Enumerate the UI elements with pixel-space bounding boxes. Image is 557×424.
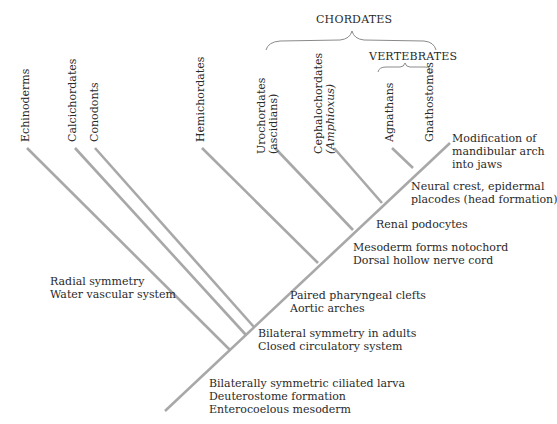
trait-root: Bilaterally symmetric ciliated larva Deu…: [209, 377, 405, 416]
trait-notochord: Mesoderm forms notochord Dorsal hollow n…: [353, 241, 508, 267]
taxon-agnathans: Agnathans: [384, 83, 396, 142]
trait-renal-podocytes: Renal podocytes: [376, 218, 468, 231]
trait-pharyngeal-clefts: Paired pharyngeal clefts Aortic arches: [290, 289, 426, 315]
taxon-calcichordates: Calcichordates: [67, 59, 79, 142]
chordates-label: CHORDATES: [316, 13, 392, 26]
taxon-cephalochordates: Cephalochordates (Amphioxus): [313, 53, 337, 154]
taxon-urochordates: Urochordates (ascidians): [256, 78, 280, 154]
taxon-hemichordates: Hemichordates: [195, 57, 207, 142]
trait-jaws: Modification of mandibular arch into jaw…: [452, 132, 545, 171]
trait-bilateral-adults: Bilateral symmetry in adults Closed circ…: [258, 327, 416, 353]
branch-agnathans: [392, 148, 413, 168]
branch-calcichordates: [75, 148, 246, 335]
chordates-brace: [266, 31, 436, 50]
branch-cephalochordates: [334, 148, 382, 203]
taxon-conodonts: Conodonts: [89, 82, 101, 142]
branch-echinoderms: [27, 148, 230, 350]
vertebrates-label: VERTEBRATES: [369, 50, 457, 63]
branch-hemichordates: [202, 148, 318, 263]
trait-radial-symmetry: Radial symmetry Water vascular system: [50, 275, 176, 301]
branch-urochordates: [275, 148, 353, 230]
taxon-gnathostomes: Gnathostomes: [424, 62, 436, 142]
taxon-echinoderms: Echinoderms: [20, 69, 32, 142]
trait-neural-crest: Neural crest, epidermal placodes (head f…: [411, 180, 557, 206]
